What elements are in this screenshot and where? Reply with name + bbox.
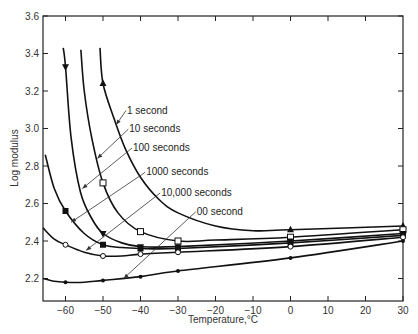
curve-label-00-second: 00 second: [197, 206, 243, 217]
y-tick-label: 3.6: [25, 11, 39, 22]
filled-dot-marker: [289, 256, 293, 260]
x-tick-label: −30: [170, 305, 187, 316]
curve-1-second: [100, 48, 403, 231]
filled-square-marker: [100, 242, 106, 248]
arrowhead-icon: [86, 246, 91, 251]
leader-line: [86, 193, 160, 250]
curves: [43, 48, 403, 283]
y-tick-label: 2.8: [25, 161, 39, 172]
data-markers: [62, 64, 407, 284]
curve-100-seconds: [63, 48, 403, 247]
curve-label-10-000-seconds: 10,000 seconds: [161, 187, 232, 198]
x-tick-label: 30: [397, 305, 409, 316]
x-tick-label: −50: [95, 305, 112, 316]
chart-svg: −60−50−40−30−20−1001020302.22.42.62.83.0…: [0, 0, 418, 334]
filled-dot-marker: [64, 280, 68, 284]
open-square-marker: [175, 238, 181, 244]
filled-dot-marker: [139, 275, 143, 279]
leader-line: [82, 148, 132, 189]
triangle-down-marker: [100, 231, 107, 238]
curve-label-1-second: 1 second: [127, 105, 168, 116]
open-square-marker: [138, 229, 144, 235]
open-square-marker: [100, 180, 106, 186]
y-tick-label: 3.0: [25, 123, 39, 134]
open-circle-marker: [288, 244, 293, 249]
open-circle-marker: [138, 252, 143, 257]
curve-label-100-seconds: 100 seconds: [133, 142, 190, 153]
x-tick-label: 0: [288, 305, 294, 316]
arrowhead-icon: [116, 120, 120, 125]
triangle-up-marker: [100, 80, 107, 87]
y-tick-label: 2.2: [25, 273, 39, 284]
open-circle-marker: [101, 254, 106, 259]
y-tick-label: 3.4: [25, 48, 39, 59]
axes: −60−50−40−30−20−1001020302.22.42.62.83.0…: [25, 11, 409, 317]
y-axis-title: Log modulus: [9, 129, 20, 186]
filled-dot-marker: [401, 239, 405, 243]
curve-00-second: [43, 241, 403, 282]
x-tick-label: −40: [132, 305, 149, 316]
y-tick-label: 3.2: [25, 86, 39, 97]
filled-square-marker: [138, 246, 144, 252]
curve-label-10-seconds: 10 seconds: [129, 123, 180, 134]
x-axis-title: Temperature,°C: [188, 314, 258, 325]
y-tick-label: 2.6: [25, 198, 39, 209]
y-tick-label: 2.4: [25, 236, 39, 247]
x-tick-label: −60: [57, 305, 74, 316]
leader-line: [124, 212, 196, 279]
filled-dot-marker: [101, 278, 105, 282]
x-tick-label: 20: [360, 305, 372, 316]
filled-dot-marker: [176, 269, 180, 273]
x-tick-label: 10: [322, 305, 334, 316]
triangle-down-marker: [62, 64, 69, 71]
filled-square-marker: [63, 208, 69, 214]
curve-labels: 1 second10 seconds100 seconds1000 second…: [71, 105, 243, 279]
open-circle-marker: [63, 242, 68, 247]
open-circle-marker: [176, 250, 181, 255]
curve-label-1000-seconds: 1000 seconds: [146, 166, 208, 177]
